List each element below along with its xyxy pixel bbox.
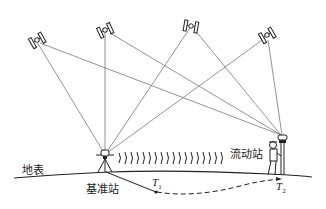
t1-subscript: 1 bbox=[158, 183, 162, 191]
t1-label: T1 bbox=[152, 176, 162, 191]
signal-lines-base bbox=[37, 28, 265, 153]
t2-subscript: 2 bbox=[282, 187, 286, 195]
base-station-label: 基准站 bbox=[86, 180, 119, 196]
diagram-svg bbox=[0, 0, 326, 209]
rover-trajectory bbox=[157, 179, 280, 194]
rover-station-label: 流动站 bbox=[230, 145, 263, 161]
rtk-diagram: 地表 基准站 流动站 T1 T2 bbox=[0, 0, 326, 209]
signal-lines-rover bbox=[40, 29, 282, 135]
radio-wave-icon bbox=[119, 152, 223, 164]
satellite-icon bbox=[183, 20, 199, 33]
satellite-icon bbox=[28, 32, 46, 49]
ground-label: 地表 bbox=[22, 161, 44, 177]
surveyor-icon bbox=[268, 142, 281, 176]
ground-line bbox=[14, 171, 312, 178]
base-station-icon bbox=[96, 150, 114, 172]
t2-label: T2 bbox=[276, 180, 286, 195]
